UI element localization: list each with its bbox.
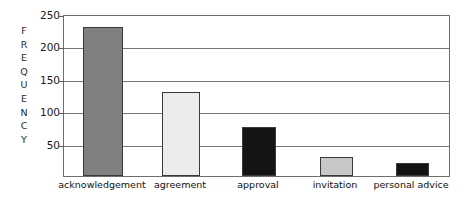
y-axis-tick-labels: 50100150200250 bbox=[24, 0, 60, 205]
bar bbox=[396, 163, 429, 176]
y-axis-tick-label: 150 bbox=[26, 75, 60, 86]
y-axis-tick-label: 250 bbox=[26, 10, 60, 21]
bar bbox=[242, 127, 276, 176]
bar-chart: F R E Q U E N C Y 50100150200250 acknowl… bbox=[0, 0, 473, 205]
bar-series bbox=[64, 16, 449, 176]
y-axis-tick-label: 50 bbox=[26, 140, 60, 151]
x-axis-category-label: personal advice bbox=[341, 179, 473, 191]
bar bbox=[320, 157, 353, 176]
y-axis-tick-label: 200 bbox=[26, 42, 60, 53]
x-axis-category-labels: acknowledgementagreementapprovalinvitati… bbox=[63, 179, 450, 199]
bar bbox=[162, 92, 200, 176]
bar bbox=[83, 27, 123, 176]
y-axis-tick-label: 100 bbox=[26, 107, 60, 118]
plot-area bbox=[63, 15, 450, 177]
